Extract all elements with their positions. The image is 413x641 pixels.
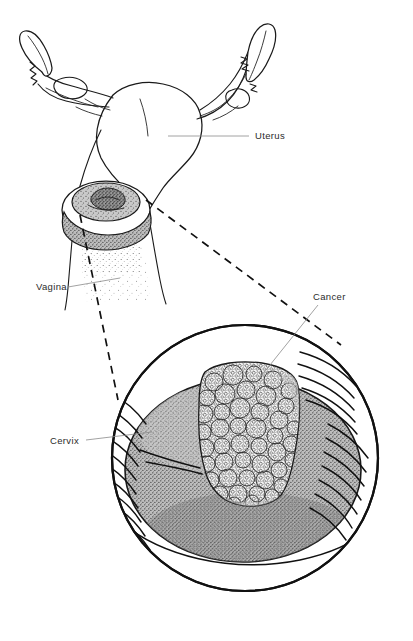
fallopian-tube-left-lower [38,84,109,107]
tumor-small [91,188,125,210]
fallopian-tube-right [200,52,248,110]
ovary-left [54,77,87,99]
fimbria-right-fringe-lower [250,84,257,92]
fold-ridge-4 [156,604,306,633]
label-cancer: Cancer [313,291,346,302]
label-cervix: Cervix [50,435,79,446]
callout-line-upper [146,200,341,345]
upper-anatomy-group [20,24,276,216]
magnified-cervix-view [96,325,390,633]
round-ligament-left [76,107,102,116]
fimbria-left [20,31,52,76]
label-vagina: Vagina [36,281,67,292]
fimbria-right [246,24,276,82]
illustration-container: Vagina Uterus [0,0,413,641]
broad-ligament-right [200,74,246,116]
fallopian-tube-left [42,72,113,98]
cervical-cancer-diagram: Vagina Uterus [0,0,413,641]
label-uterus: Uterus [255,130,285,141]
